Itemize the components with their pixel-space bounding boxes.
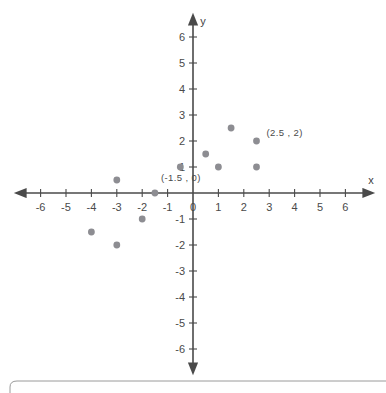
x-axis-tick-labels: -6-5-4-3-2-10123456 xyxy=(36,201,349,213)
data-point[interactable] xyxy=(152,190,159,197)
x-tick-label: -6 xyxy=(36,201,46,213)
y-tick-label: -5 xyxy=(175,317,185,329)
data-point[interactable] xyxy=(88,229,95,236)
x-tick-label: 2 xyxy=(241,201,247,213)
x-tick-label: 5 xyxy=(317,201,323,213)
y-tick-label: -4 xyxy=(175,291,185,303)
y-tick-label: 4 xyxy=(179,83,185,95)
y-tick-label: 6 xyxy=(179,31,185,43)
x-tick-label: 6 xyxy=(342,201,348,213)
x-tick-label: -5 xyxy=(61,201,71,213)
x-tick-label: -4 xyxy=(87,201,97,213)
y-tick-label: -3 xyxy=(175,265,185,277)
scatter-plot-figure: -6-5-4-3-2-10123456 -6-5-4-3-2-1123456 (… xyxy=(0,0,386,393)
x-tick-label: 3 xyxy=(266,201,272,213)
x-tick-label: -3 xyxy=(112,201,122,213)
x-tick-label: -2 xyxy=(137,201,147,213)
data-point[interactable] xyxy=(139,216,146,223)
data-point[interactable] xyxy=(253,138,260,145)
x-tick-label: 0 xyxy=(190,201,196,213)
x-axis-name-label: x xyxy=(368,174,374,186)
y-tick-label: 3 xyxy=(179,109,185,121)
y-tick-label: -1 xyxy=(175,213,185,225)
data-point[interactable] xyxy=(228,125,235,132)
data-point[interactable] xyxy=(215,164,222,171)
y-tick-label: -2 xyxy=(175,239,185,251)
data-point[interactable] xyxy=(202,151,209,158)
y-tick-label: -6 xyxy=(175,343,185,355)
data-point[interactable] xyxy=(177,164,184,171)
bottom-frame-border xyxy=(10,381,386,393)
point-annotation-label: (-1.5 , 0) xyxy=(161,172,201,183)
x-tick-label: 1 xyxy=(215,201,221,213)
data-point[interactable] xyxy=(253,164,260,171)
point-annotation-label: (2.5 , 2) xyxy=(267,127,303,138)
x-tick-label: 4 xyxy=(292,201,298,213)
y-axis-name-label: y xyxy=(200,15,206,27)
coordinate-plane-svg: -6-5-4-3-2-10123456 -6-5-4-3-2-1123456 (… xyxy=(0,0,386,393)
data-point[interactable] xyxy=(113,242,120,249)
data-point[interactable] xyxy=(113,177,120,184)
y-tick-label: 2 xyxy=(179,135,185,147)
data-point-group xyxy=(88,125,260,249)
y-tick-label: 5 xyxy=(179,57,185,69)
x-tick-label: -1 xyxy=(163,201,173,213)
